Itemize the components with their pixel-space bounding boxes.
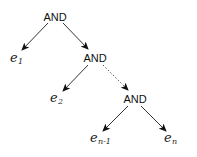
edge-bottom-to-en-minus-1 bbox=[103, 106, 128, 131]
leaf-en-minus-1: e n-1 bbox=[90, 130, 111, 146]
svg-text:e: e bbox=[50, 90, 58, 105]
and-tree-diagram: AND AND AND e 1 e 2 e n-1 e n bbox=[0, 0, 197, 157]
svg-text:e: e bbox=[90, 130, 98, 145]
svg-text:n: n bbox=[172, 137, 177, 146]
leaf-e1: e 1 bbox=[10, 50, 23, 66]
edge-bottom-to-en bbox=[141, 106, 166, 131]
svg-text:n-1: n-1 bbox=[98, 137, 111, 146]
edge-mid-to-e2 bbox=[63, 65, 88, 91]
node-and-root: AND bbox=[43, 11, 66, 23]
edge-mid-to-and-bottom-dotted bbox=[103, 65, 128, 90]
node-and-mid: AND bbox=[83, 52, 106, 64]
edge-root-to-e1 bbox=[22, 23, 48, 50]
edge-root-to-and-mid bbox=[63, 23, 88, 49]
svg-text:e: e bbox=[164, 130, 172, 145]
svg-text:1: 1 bbox=[18, 57, 23, 66]
svg-text:2: 2 bbox=[57, 97, 63, 106]
leaf-e2: e 2 bbox=[50, 90, 63, 106]
leaf-en: e n bbox=[164, 130, 177, 146]
node-and-bottom: AND bbox=[123, 93, 146, 105]
svg-text:e: e bbox=[10, 50, 18, 65]
